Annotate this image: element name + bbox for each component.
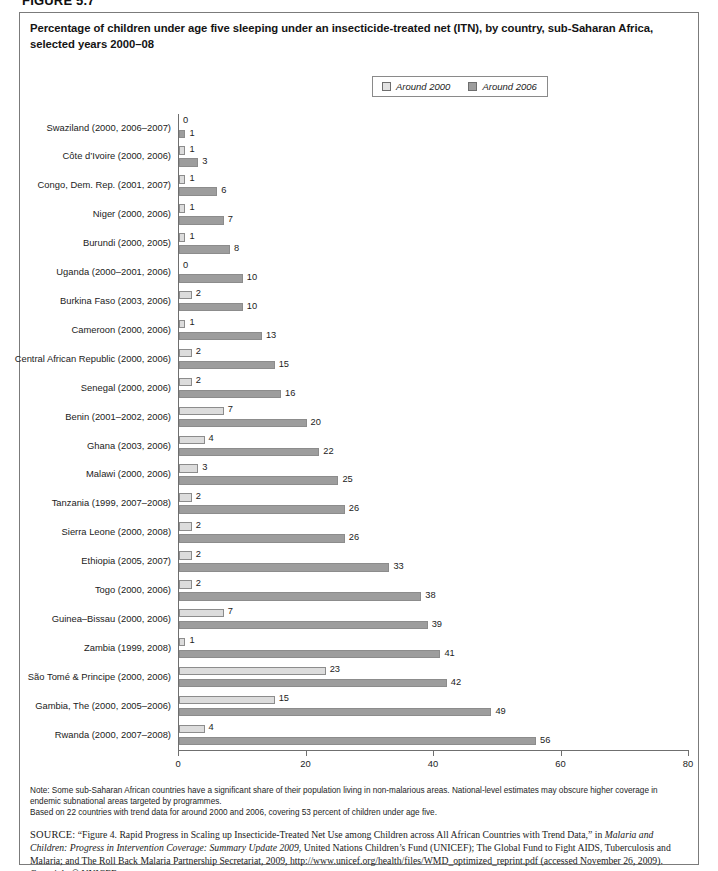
legend-swatch-dark-icon [468,82,477,91]
page-title: Percentage of children under age five sl… [30,21,678,52]
bar-around-2006[interactable] [179,679,447,688]
bar-around-2000[interactable] [179,551,192,560]
bar-value-label: 13 [266,331,276,340]
bar-around-2000[interactable] [179,378,192,387]
bar-around-2000[interactable] [179,146,185,155]
bar-value-label: 16 [285,389,295,398]
legend-label-around-2000: Around 2000 [396,81,450,92]
chart-row: Zambia (1999, 2008)141 [179,634,689,663]
bar-around-2006[interactable] [179,130,185,139]
bar-value-label: 2 [196,347,201,356]
category-label: Swaziland (2000, 2006–2007) [46,122,171,133]
bar-around-2000[interactable] [179,493,192,502]
category-label: Niger (2000, 2006) [93,208,171,219]
source-part-1: “Figure 4. Rapid Progress in Scaling up … [75,829,604,840]
bar-value-label: 2 [196,579,201,588]
bar-around-2000[interactable] [179,522,192,531]
bar-around-2000[interactable] [179,233,185,242]
bar-around-2006[interactable] [179,216,224,225]
bar-around-2006[interactable] [179,245,230,254]
bar-around-2000[interactable] [179,667,326,676]
bar-value-label: 10 [247,273,257,282]
category-label: Cameroon (2000, 2006) [71,324,171,335]
category-label: Burundi (2000, 2005) [83,237,171,248]
bar-around-2006[interactable] [179,187,217,196]
chart-row: Togo (2000, 2006)238 [179,577,689,606]
bar-around-2000[interactable] [179,464,198,473]
bar-around-2000[interactable] [179,175,185,184]
category-label: Zambia (1999, 2008) [84,642,171,653]
chart-row: Côte d’Ivoire (2000, 2006)13 [179,143,689,172]
chart-row: Swaziland (2000, 2006–2007)01 [179,114,689,143]
bar-around-2006[interactable] [179,390,281,399]
bar-around-2000[interactable] [179,349,192,358]
category-label: Central African Republic (2000, 2006) [15,353,171,364]
bar-around-2000[interactable] [179,291,192,300]
bar-value-label: 26 [349,533,359,542]
chart-row: Sierra Leone (2000, 2008)226 [179,519,689,548]
bar-value-label: 26 [349,504,359,513]
chart-row: Niger (2000, 2006)17 [179,201,689,230]
bar-value-label: 3 [202,157,207,166]
bar-value-label: 1 [189,636,194,645]
bar-value-label: 20 [311,418,321,427]
x-axis-tick [178,751,179,756]
bar-around-2006[interactable] [179,448,319,457]
bar-around-2000[interactable] [179,638,185,647]
bar-around-2006[interactable] [179,303,243,312]
bar-value-label: 23 [330,665,340,674]
chart-row: Rwanda (2000, 2007–2008)456 [179,721,689,750]
bar-around-2006[interactable] [179,274,243,283]
bar-value-label: 39 [432,620,442,629]
bar-around-2000[interactable] [179,320,185,329]
bar-around-2000[interactable] [179,407,224,416]
bar-around-2006[interactable] [179,419,307,428]
bar-around-2006[interactable] [179,534,345,543]
bar-value-label: 7 [228,215,233,224]
bar-value-label: 1 [189,318,194,327]
bar-around-2000[interactable] [179,696,275,705]
category-label: Congo, Dem. Rep. (2001, 2007) [38,179,171,190]
chart-row: Ghana (2003, 2006)422 [179,432,689,461]
chart-row: Central African Republic (2000, 2006)215 [179,345,689,374]
chart-notes: Note: Some sub-Saharan African countries… [30,785,685,819]
bar-around-2006[interactable] [179,708,491,717]
legend-item-around-2000[interactable]: Around 2000 [382,81,450,92]
bar-value-label: 38 [425,591,435,600]
bar-around-2006[interactable] [179,361,275,370]
category-label: Guinea–Bissau (2000, 2006) [52,613,171,624]
bar-around-2000[interactable] [179,436,205,445]
legend-item-around-2006[interactable]: Around 2006 [468,81,536,92]
x-axis-tick [561,751,562,756]
bar-value-label: 2 [196,550,201,559]
bar-around-2006[interactable] [179,621,428,630]
category-label: Benin (2001–2002, 2006) [65,411,171,422]
bar-around-2006[interactable] [179,505,345,514]
bar-value-label: 2 [196,521,201,530]
chart-row: Uganda (2000–2001, 2006)010 [179,259,689,288]
note-line-1: Note: Some sub-Saharan African countries… [30,785,685,807]
bar-value-label: 2 [196,376,201,385]
x-axis: 020406080 [178,750,689,776]
source-prefix: SOURCE: [30,829,75,840]
bar-around-2000[interactable] [179,725,205,734]
x-axis-tick-label: 0 [175,758,180,769]
category-label: Côte d’Ivoire (2000, 2006) [63,150,171,161]
bar-value-label: 0 [183,116,188,125]
bar-around-2006[interactable] [179,650,440,659]
bar-around-2006[interactable] [179,332,262,341]
chart-row: Burundi (2000, 2005)18 [179,230,689,259]
x-axis-tick-label: 20 [300,758,310,769]
chart-row: Burkina Faso (2003, 2006)210 [179,287,689,316]
chart-row: Cameroon (2000, 2006)113 [179,316,689,345]
bar-around-2000[interactable] [179,580,192,589]
bar-around-2006[interactable] [179,476,338,485]
category-label: Ethiopia (2005, 2007) [81,555,171,566]
bar-around-2006[interactable] [179,737,536,746]
bar-around-2006[interactable] [179,563,389,572]
bar-around-2000[interactable] [179,204,185,213]
bar-around-2006[interactable] [179,158,198,167]
bar-around-2006[interactable] [179,592,421,601]
bar-around-2000[interactable] [179,609,224,618]
category-label: Senegal (2000, 2006) [81,382,171,393]
